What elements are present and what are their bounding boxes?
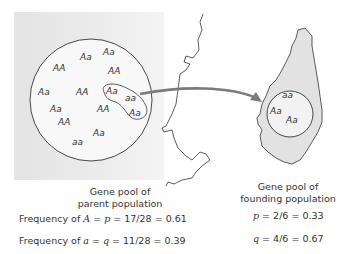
genotype: Aa [50,104,62,114]
genotype: aa [282,90,293,100]
genotype: AA [53,63,65,73]
genotype: AA [58,117,70,127]
genotype: Aa [106,86,118,96]
genotype: aa [125,93,136,103]
parent-pool-label: Gene pool of parent population [50,186,190,210]
founding-pool-label: Gene pool of founding population [238,181,338,205]
genotype: Aa [38,87,50,97]
genotype: Aa [80,52,92,62]
migration-arrow [140,88,256,98]
founding-freq-p: p = 2/6 = 0.33 [253,210,324,221]
genotype: AA [76,87,88,97]
mainland-coastline [162,14,210,186]
parent-freq-a: Frequency of a = q = 11/28 = 0.39 [19,235,186,246]
parent-freq-A: Frequency of A = p = 17/28 = 0.61 [19,213,187,224]
genotype: Aa [286,115,298,125]
genotype: AA [108,66,120,76]
genotype: Aa [129,108,141,118]
founding-freq-q: q = 4/6 = 0.67 [253,233,324,244]
genotype: Aa [103,47,115,57]
genotype: Aa [93,128,105,138]
genotype: aa [72,137,83,147]
genotype: Aa [270,106,282,116]
genotype: AA [97,104,109,114]
